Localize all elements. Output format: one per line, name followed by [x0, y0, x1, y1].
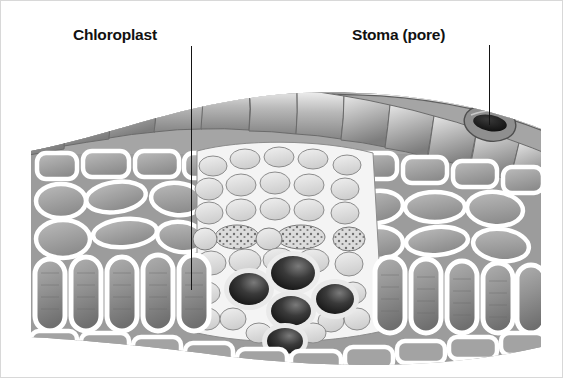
stoma-left — [25, 102, 82, 147]
leader-line-chloroplast — [191, 46, 192, 290]
xylem-vessel — [311, 279, 359, 319]
figure-canvas: Chloroplast Stoma (pore) — [0, 0, 563, 378]
leaf-cross-section-illustration — [1, 1, 563, 378]
label-stoma: Stoma (pore) — [352, 26, 445, 44]
palisade-mesophyll-right — [375, 257, 545, 333]
leaf-body — [25, 86, 546, 373]
leader-line-stoma — [489, 45, 490, 125]
label-chloroplast: Chloroplast — [73, 26, 157, 44]
xylem-vessel — [266, 251, 320, 295]
palisade-mesophyll-left — [35, 255, 209, 331]
